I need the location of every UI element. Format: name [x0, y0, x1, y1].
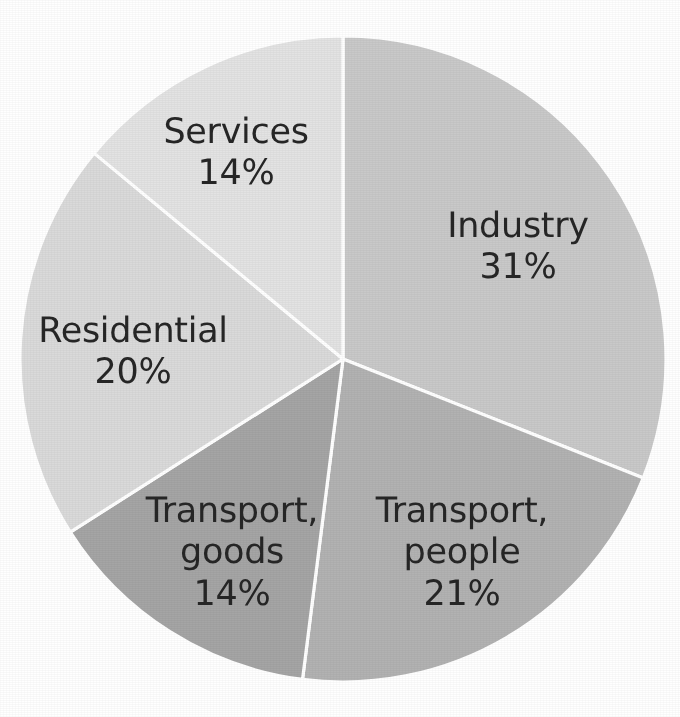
pie-chart-figure: Industry31%Transport,people21%Transport,…	[0, 0, 680, 717]
pie-chart-canvas	[0, 0, 680, 717]
pie-slice-group	[20, 36, 666, 682]
